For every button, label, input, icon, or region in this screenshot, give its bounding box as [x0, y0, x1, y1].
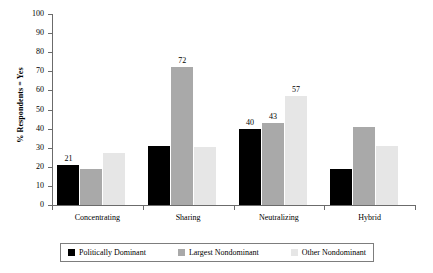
x-axis-category-label: Hybrid	[324, 212, 415, 224]
legend-item-label: Largest Nondominant	[189, 247, 259, 258]
x-axis-tick-mark	[234, 206, 235, 210]
legend-swatch-icon	[178, 249, 185, 256]
x-axis-tick-mark	[143, 206, 144, 210]
bar[interactable]	[330, 169, 352, 205]
x-axis-tick-mark	[52, 206, 53, 210]
legend-item-label: Other Nondominant	[302, 247, 366, 258]
legend-item-label: Politically Dominant	[79, 247, 146, 258]
x-axis-tick-mark	[324, 206, 325, 210]
x-axis-category-label: Neutralizing	[234, 212, 325, 224]
y-axis-tick: 0	[0, 205, 52, 206]
x-axis-tick-mark	[415, 206, 416, 210]
legend-swatch-icon	[291, 249, 298, 256]
bar-chart: % Respondents = Yes 10090807060504030201…	[0, 0, 433, 273]
x-axis-category-label: Sharing	[143, 212, 234, 224]
legend-item[interactable]: Largest Nondominant	[178, 247, 259, 258]
x-axis-category-label: Concentrating	[52, 212, 143, 224]
legend-item[interactable]: Politically Dominant	[68, 247, 146, 258]
legend-item[interactable]: Other Nondominant	[291, 247, 366, 258]
legend: Politically Dominant Largest Nondominant…	[60, 243, 374, 262]
legend-swatch-icon	[68, 249, 75, 256]
bar[interactable]	[376, 146, 398, 205]
bar-group	[0, 14, 415, 205]
bar[interactable]	[353, 127, 375, 205]
